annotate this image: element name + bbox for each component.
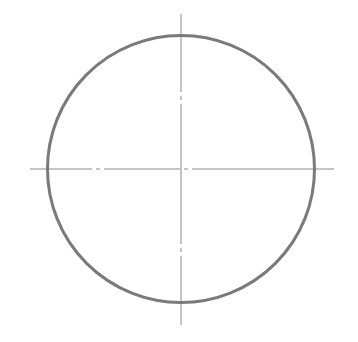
circle-diagram: [0, 0, 358, 342]
